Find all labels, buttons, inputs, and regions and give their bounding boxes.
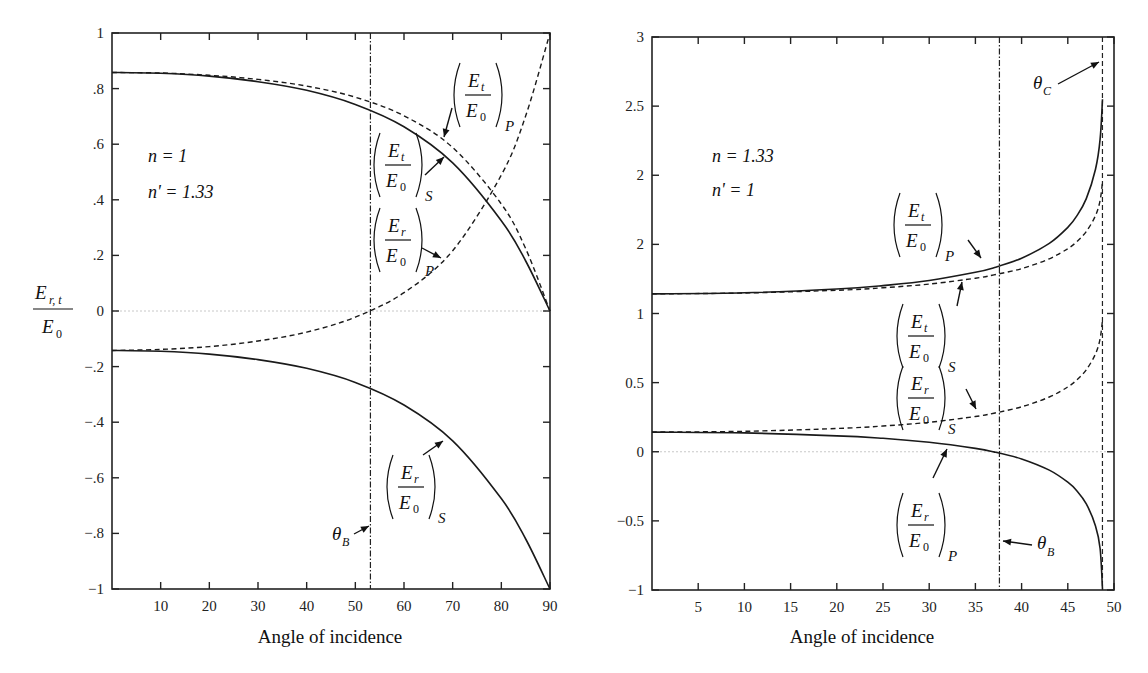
curve-annotation-t-p: EtE0P — [454, 63, 514, 134]
polarization-subscript: P — [424, 263, 434, 279]
arrow-head — [434, 441, 443, 448]
medium-index-label: n = 1.33 — [712, 146, 774, 166]
x-tick-label: 80 — [494, 598, 509, 614]
x-tick-label: 30 — [251, 598, 266, 614]
curve-annotation-r-p: ErE0P — [374, 208, 434, 279]
curve-annotation-t-s: EtE0S — [897, 304, 956, 375]
theta-symbol: θ — [332, 523, 341, 544]
right-paren — [416, 133, 422, 197]
y-label-numerator: E — [34, 282, 47, 303]
numerator-E: E — [910, 373, 923, 394]
y-label-denominator-sub: 0 — [56, 327, 62, 341]
numerator-subscript: r — [924, 510, 929, 524]
numerator-subscript: r — [414, 472, 419, 486]
left-paren — [897, 366, 903, 430]
left-paren — [387, 455, 393, 519]
numerator-E: E — [907, 200, 920, 221]
right-paren — [429, 455, 435, 519]
right-paren — [939, 493, 945, 557]
x-tick-label: 20 — [202, 598, 217, 614]
right-paren — [496, 63, 502, 127]
right-paren — [939, 304, 945, 368]
y-label-numerator-sub: r, t — [49, 293, 62, 307]
right-paren — [936, 193, 942, 257]
curve-annotation-r-p: ErE0P — [897, 493, 957, 564]
y-tick-label: −.8 — [84, 525, 104, 541]
numerator-E: E — [387, 215, 400, 236]
denominator-E: E — [908, 341, 921, 362]
numerator-subscript: t — [924, 321, 928, 335]
x-tick-label: 20 — [829, 599, 844, 615]
arrow-head — [1003, 539, 1011, 546]
x-axis-label: Angle of incidence — [258, 626, 403, 647]
theta-subscript: B — [342, 535, 350, 549]
arrow-head — [973, 249, 981, 258]
y-tick-label: −.4 — [84, 414, 104, 430]
y-tick-label: .2 — [93, 247, 104, 263]
curve-e-r-e-0-s — [652, 320, 1103, 432]
y-axis-label: Er, tE0 — [33, 282, 73, 341]
left-paren — [897, 304, 903, 368]
y-tick-label: .6 — [93, 136, 105, 152]
y-tick-label: .4 — [93, 192, 105, 208]
medium-index-label: n = 1 — [148, 146, 187, 166]
plot-left-external-reflection: 1020304050607080901.8.6.4.20−.2−.4−.6−.8… — [33, 25, 558, 647]
theta-symbol: θ — [1037, 532, 1046, 553]
theta-c-arrow — [1058, 62, 1099, 84]
theta-subscript: C — [1043, 84, 1052, 98]
y-tick-label: 0 — [97, 303, 105, 319]
y-tick-label: 2 — [637, 167, 645, 183]
polarization-subscript: P — [944, 248, 954, 264]
numerator-E: E — [400, 462, 413, 483]
plot-right-internal-reflection: 510152025303540455032.52210.50−0.5−1Angl… — [617, 29, 1122, 647]
polarization-subscript: S — [948, 421, 956, 437]
x-tick-label: 10 — [153, 598, 168, 614]
y-tick-label: 1 — [637, 306, 645, 322]
denominator-E: E — [905, 230, 918, 251]
numerator-subscript: t — [401, 150, 405, 164]
y-tick-label: .8 — [93, 81, 104, 97]
y-tick-label: 2 — [637, 236, 645, 252]
left-paren — [894, 193, 900, 257]
numerator-subscript: r — [924, 383, 929, 397]
curve-annotation-t-p: EtE0P — [894, 193, 954, 264]
annotation-arrow — [422, 248, 441, 258]
denominator-E: E — [398, 492, 411, 513]
theta-b-label: θB — [332, 523, 350, 549]
annotation-arrow — [933, 449, 947, 478]
medium-index-label: n' = 1 — [712, 180, 755, 200]
numerator-subscript: t — [921, 210, 925, 224]
curve-annotation-r-s: ErE0S — [387, 455, 446, 526]
y-tick-label: 0.5 — [625, 375, 644, 391]
x-tick-label: 25 — [876, 599, 891, 615]
annotation-arrow — [957, 282, 964, 306]
x-tick-label: 50 — [348, 598, 363, 614]
x-tick-label: 5 — [694, 599, 702, 615]
numerator-E: E — [910, 500, 923, 521]
denominator-subscript: 0 — [480, 110, 486, 124]
y-tick-label: 0 — [637, 444, 645, 460]
y-tick-label: 2.5 — [625, 98, 644, 114]
left-paren — [897, 493, 903, 557]
theta-c-label: θC — [1033, 72, 1052, 98]
annotation-arrow — [443, 108, 452, 137]
x-tick-label: 40 — [1014, 599, 1029, 615]
denominator-subscript: 0 — [400, 255, 406, 269]
x-tick-label: 35 — [968, 599, 983, 615]
denominator-subscript: 0 — [923, 540, 929, 554]
curve-e-r-e-0-p — [652, 432, 1103, 589]
theta-b-arrow — [354, 526, 369, 534]
y-tick-label: 3 — [637, 29, 645, 45]
left-paren — [454, 63, 460, 127]
x-tick-label: 10 — [737, 599, 752, 615]
y-tick-label: −0.5 — [617, 513, 644, 529]
denominator-subscript: 0 — [923, 351, 929, 365]
curve-annotation-t-s: EtE0S — [374, 133, 433, 204]
y-tick-label: −.6 — [84, 470, 104, 486]
x-tick-label: 30 — [922, 599, 937, 615]
y-tick-label: −1 — [628, 582, 644, 598]
x-tick-label: 60 — [397, 598, 412, 614]
x-tick-label: 15 — [783, 599, 798, 615]
y-label-denominator: E — [41, 316, 54, 337]
fresnel-figure: 1020304050607080901.8.6.4.20−.2−.4−.6−.8… — [0, 0, 1148, 673]
